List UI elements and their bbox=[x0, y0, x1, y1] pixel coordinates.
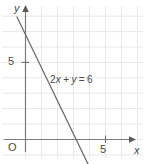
graph-figure: 5 5 y x O 2x + y = 6 bbox=[0, 0, 145, 164]
x-axis-label: x bbox=[134, 145, 140, 156]
x-axis-tick-label-5: 5 bbox=[100, 144, 106, 155]
y-axis-label: y bbox=[14, 3, 20, 14]
y-axis-tick-label-5: 5 bbox=[8, 56, 14, 67]
origin-label: O bbox=[8, 142, 17, 153]
equation-label: 2x + y = 6 bbox=[50, 75, 93, 85]
line-2x-plus-y-equals-6 bbox=[17, 17, 88, 164]
y-axis-arrow-icon bbox=[22, 5, 29, 12]
equation-rhs: 6 bbox=[87, 74, 93, 85]
x-axis-arrow-icon bbox=[129, 136, 136, 142]
